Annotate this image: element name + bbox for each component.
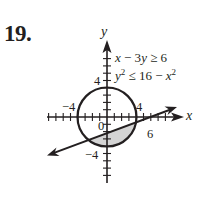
tick-label-x-4: 4 [136, 101, 142, 114]
tick-label-x-6: 6 [147, 128, 153, 141]
tick-label-y-4: 4 [94, 75, 100, 88]
tick-label-y-neg4: −4 [85, 149, 98, 162]
y-axis [103, 40, 112, 183]
tick-label-origin: 0 [98, 120, 104, 133]
x-axis-label: x [186, 109, 192, 123]
inequality-line: x − 3y ≥ 6 [115, 51, 167, 64]
y-axis-label: y [101, 25, 107, 39]
inequality-circle: y2 ≤ 16 − x2 [115, 69, 176, 82]
tick-label-x-neg4: −4 [62, 101, 75, 114]
